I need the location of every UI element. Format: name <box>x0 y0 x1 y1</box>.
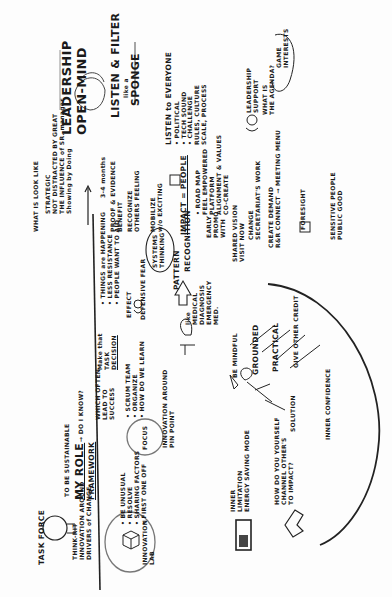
mindful-line: BE MINDFUL <box>232 333 239 378</box>
strategic-line: Showing by Doing <box>66 99 73 214</box>
focus-item: • HOW DO WE LEARN <box>139 341 146 418</box>
impact-item: CO-CREATE <box>223 135 230 215</box>
headline-title-line2: OPEN-MIND <box>75 40 90 135</box>
step-7-sub: PUBLIC GOOD <box>337 172 344 240</box>
pattern-label: PATTERN <box>173 250 182 290</box>
strategic-label: WHAT IS LOOK LIKE <box>33 161 40 232</box>
step-5-sub: R&R CONNECT → MEETING MENU <box>275 130 282 248</box>
listen-item: SCALE, PROCESS <box>201 52 208 145</box>
success-line3: SUCCESS <box>109 369 116 420</box>
headline-subtitle-line3: SPONGE <box>130 13 143 118</box>
focus-item: PIN POINT <box>169 369 176 448</box>
medical-block: like MEDICAL DIAGNOSIS EMERGENCY MED. <box>185 281 219 325</box>
impact-side2: SHARED VISION VISIT NOW <box>232 205 246 262</box>
defensive-fear-label: DEFENSIVE FEAR <box>140 259 147 320</box>
leadership-support-line2: SUPPORT <box>253 68 260 113</box>
impact-list: • ROAD MAP FEEL EMPOWERED PLATFORM ALIGN… <box>195 135 229 215</box>
recognition-label: RECOGNITION <box>184 210 193 272</box>
mindful-line: GROUNDED <box>252 324 261 375</box>
timeline-step-2: RECOGNIZE OTHERS FEELING <box>127 170 141 232</box>
innovation-item: • FIRST ONE OFF <box>141 451 148 526</box>
systems-line2: THINKING <box>159 232 166 268</box>
game-interests-line2: INTERESTS <box>283 28 290 68</box>
things-happening: • THINGS are HAPPENING • LESS RESISTANCE… <box>100 212 121 305</box>
channel-question: HOW DO YOU YOURSELF CHANNEL OTHER'S TO I… <box>274 417 295 505</box>
timeline-step-7: SENSITIVE PEOPLE PUBLIC GOOD <box>330 172 344 240</box>
medical-line: MED. <box>213 281 220 325</box>
timeline-step-5: CREATE DEMAND R&R CONNECT → MEETING MENU <box>268 130 282 248</box>
headline-subtitle: LISTEN & FILTER like a SPONGE <box>110 13 142 118</box>
my-role-intro: TO BE SUSTAINABLE <box>64 424 71 497</box>
task-force-line: DRIVERS of CHANGE <box>86 481 93 560</box>
innovation-lab-line2: LAB <box>149 520 156 565</box>
innovation-lab-list: • BE UNUSUAL • RESOLVE • SHARING FACTORS… <box>120 451 148 526</box>
things-line: • PEOPLE WANT TO AID <box>114 212 121 305</box>
systems-thinking: SYSTEMS THINKING <box>152 232 166 268</box>
timeline-step-6: FORESIGHT <box>300 189 307 230</box>
energy-block: INNER LIMITATION ENERGY SAVING MODE <box>230 430 251 512</box>
step-4-sub: SECRETARIAT'S WORK <box>255 160 262 240</box>
impact-side2-item: VISIT NOW <box>239 205 246 262</box>
mindful-line: PRACTICAL <box>272 323 281 372</box>
success-block: WHICH OFTEN LEAD TO SUCCESS <box>95 369 116 420</box>
strategic-block: STRATEGIC NOT DISTRACTED BY GREAT THE IN… <box>45 99 73 214</box>
effect-label: EFFECT <box>126 291 133 318</box>
step-2-sub: OTHERS FEELING <box>134 170 141 232</box>
step-3-sub: w/o EXCITING <box>157 183 164 232</box>
timeline-duration: 3-4 months <box>100 157 107 198</box>
impact-side-item: WITH <box>220 211 227 238</box>
task-force-block: THINK-RIT INNOVATION AROUND DRIVERS of C… <box>72 481 93 560</box>
innovation-lab-label: INNOVATION LAB <box>142 520 156 565</box>
focus-label: FOCUS <box>142 426 149 450</box>
impact-side: EARLY PROMO WITH <box>206 211 227 238</box>
headline-subtitle-line1: LISTEN & FILTER <box>110 13 123 118</box>
inner-confidence-label: INNER CONFIDENCE <box>325 369 332 440</box>
energy-line: ENERGY SAVING MODE <box>244 430 251 512</box>
timeline-step-3: MOBILIZE w/o EXCITING <box>150 183 164 232</box>
mindful-line: GIVE OTHER CREDIT <box>293 295 300 368</box>
agenda-question: WHAT IS THE AGENDA? <box>262 65 276 115</box>
sketchnote-canvas: LEADERSHIP OPEN-MIND LISTEN & FILTER lik… <box>0 0 392 597</box>
decision-block: Make that TASK DECISION <box>97 333 118 370</box>
task-force-label: TASK FORCE <box>38 510 47 565</box>
leadership-support: LEADERSHIP SUPPORT <box>246 68 260 113</box>
timeline-step-4: CHANGE SECRETARIAT'S WORK <box>248 160 262 240</box>
step-6-text: FORESIGHT <box>300 189 307 230</box>
focus-list: • SCRUM TEAM • ORGANIZE • HOW DO WE LEAR… <box>125 341 146 418</box>
do-i-know: → DO I KNOW? <box>78 390 85 442</box>
listen-section: LISTEN to EVERYONE • POLITICAL • TECH SO… <box>165 52 208 145</box>
channel-line3: TO IMPACT? <box>288 417 295 505</box>
game-interests-callout: GAME INTERESTS <box>276 28 290 68</box>
focus-extra: INNOVATION AROUND PIN POINT <box>162 369 176 448</box>
decision-line3: DECISION <box>111 333 118 370</box>
agenda-question-line2: THE AGENDA? <box>269 65 276 115</box>
